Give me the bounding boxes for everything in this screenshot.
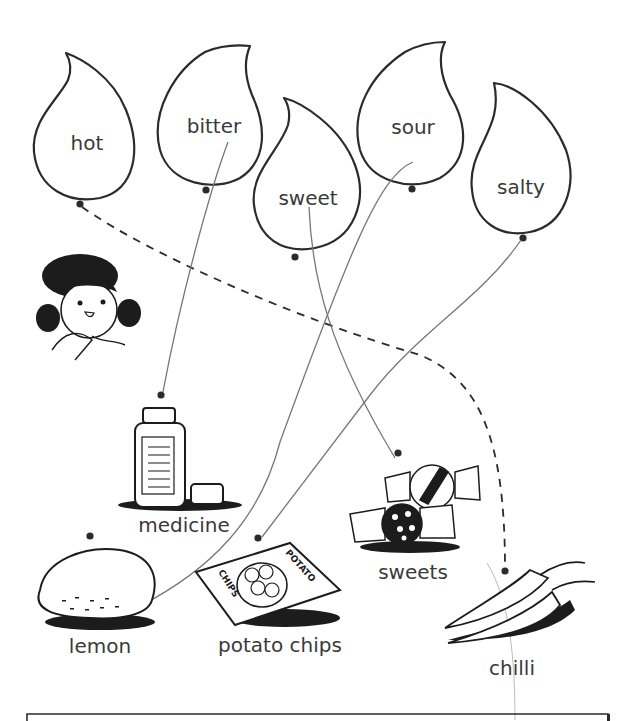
answer-box-border — [27, 714, 608, 721]
girl-tasting-illustration — [36, 254, 141, 360]
dot-sweet — [291, 253, 298, 260]
food-label-medicine: medicine — [138, 513, 230, 537]
taste-label-hot: hot — [71, 131, 104, 155]
potato-chips-illustration: POTATO CHIPS — [196, 543, 340, 627]
sweets-illustration — [350, 465, 480, 553]
food-label-sweets: sweets — [378, 560, 448, 584]
drop-hot — [34, 53, 134, 199]
dot-lemon — [86, 532, 93, 539]
taste-label-sweet: sweet — [278, 186, 337, 210]
taste-label-salty: salty — [497, 175, 545, 199]
food-label-chilli: chilli — [489, 656, 535, 680]
lemon-illustration — [38, 549, 155, 630]
food-label-potato-chips: potato chips — [218, 633, 342, 657]
medicine-illustration — [118, 408, 242, 511]
dot-chilli — [501, 567, 508, 574]
taste-label-bitter: bitter — [187, 114, 241, 138]
dot-bitter — [202, 186, 209, 193]
dot-medicine — [157, 391, 164, 398]
food-label-lemon: lemon — [69, 634, 131, 658]
dot-potato-chips — [254, 534, 261, 541]
taste-matching-worksheet: POTATO CHIPS — [0, 0, 631, 721]
drop-sweet — [254, 98, 360, 249]
chilli-illustration — [445, 562, 595, 643]
dot-sour — [408, 185, 415, 192]
drop-salty — [471, 83, 570, 233]
taste-label-sour: sour — [391, 115, 435, 139]
dot-sweets — [394, 449, 401, 456]
